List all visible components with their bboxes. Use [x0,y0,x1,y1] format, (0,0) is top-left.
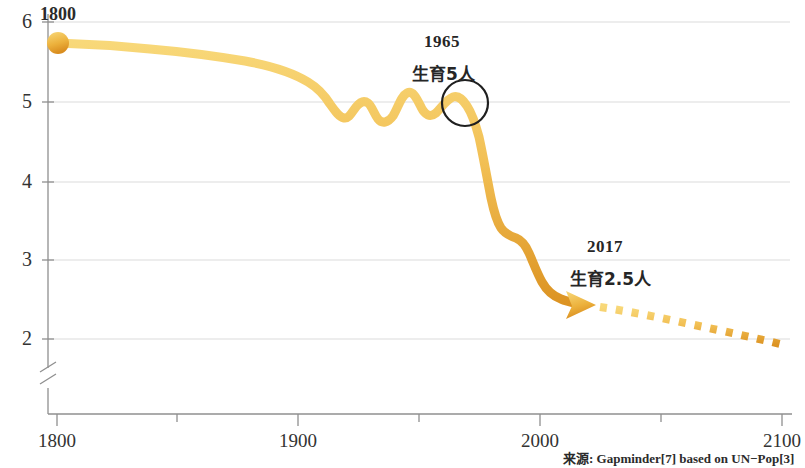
x-tick-label-1800: 1800 [27,430,87,452]
source-note: 来源: Gapminder[7] based on UN−Pop[3] [563,448,794,467]
annotation-1965-value: 生育5人 [412,60,475,85]
annotation-2017-value: 生育2.5人 [570,265,651,290]
x-tick-label-1900: 1900 [268,430,328,452]
x-tick-label-2000: 2000 [510,430,570,452]
series-historical [58,43,584,305]
annotation-start-year: 1800 [40,4,76,25]
y-tick-label-2: 2 [6,327,32,350]
x-axis [48,414,792,426]
y-tick-label-5: 5 [6,90,32,113]
y-tick-label-3: 3 [6,248,32,271]
y-axis [40,14,56,414]
annotation-2017-year: 2017 [587,237,623,257]
y-tick-label-4: 4 [6,170,32,193]
annotation-1965-year: 1965 [424,32,460,52]
y-tick-label-6: 6 [6,10,32,33]
start-point-marker [47,32,69,54]
